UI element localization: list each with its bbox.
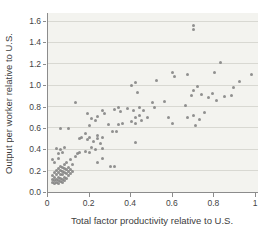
scatter-point [101,136,104,139]
x-tick-label: 0.4 [117,198,143,208]
scatter-point [142,109,145,112]
scatter-point [196,85,199,88]
scatter-point [65,177,68,180]
x-tick-label: 0.2 [76,198,102,208]
scatter-point [213,71,216,74]
scatter-point [96,134,99,137]
scatter-point [80,136,83,139]
y-tick [43,42,46,43]
scatter-point [101,157,104,160]
scatter-point [61,151,64,154]
scatter-point [69,158,72,161]
scatter-point [171,122,174,125]
scatter-point [96,115,99,118]
scatter-point [117,123,120,126]
scatter-point [101,147,104,150]
scatter-point [130,84,133,87]
scatter-point [99,142,102,145]
scatter-point [136,91,139,94]
y-tick-label: 1.6 [15,16,41,26]
scatter-point [192,24,195,27]
scatter-point [230,94,233,97]
y-tick-label: 0.6 [15,123,41,133]
scatter-point [74,155,77,158]
y-tick-label: 0.8 [15,102,41,112]
x-tick [172,193,173,197]
x-tick [213,193,214,197]
scatter-point [163,100,166,103]
y-tick-label: 0.4 [15,144,41,154]
scatter-point [71,170,74,173]
scatter-point [117,106,120,109]
scatter-point [74,101,77,104]
x-tick [130,193,131,197]
scatter-point [57,157,60,160]
scatter-point [53,161,56,164]
scatter-point [200,93,203,96]
scatter-point [115,130,118,133]
gridline-y-0.2 [48,170,258,171]
scatter-point [192,114,195,117]
gridline-y-0.4 [48,149,258,150]
scatter-point [96,137,99,140]
x-tick-label: 0.6 [159,198,185,208]
scatter-point [94,119,97,122]
scatter-point [215,99,218,102]
scatter-point [57,152,60,155]
scatter-point [59,127,62,130]
scatter-point [155,79,158,82]
y-tick [43,171,46,172]
scatter-point [171,71,174,74]
y-tick [43,21,46,22]
y-tick-label: 0.0 [15,187,41,197]
x-tick-label: 1 [242,198,267,208]
scatter-point [121,122,124,125]
x-tick [255,193,256,197]
y-tick [43,149,46,150]
scatter-point [232,86,235,89]
scatter-point [63,146,66,149]
y-tick-label: 1.4 [15,37,41,47]
x-tick [47,193,48,197]
x-tick-label: 0 [34,198,60,208]
scatter-point [90,146,93,149]
scatter-point [134,141,137,144]
y-tick [43,128,46,129]
y-tick-label: 1.0 [15,80,41,90]
scatter-point [92,140,95,143]
scatter-point [203,111,206,114]
scatter-point [65,161,68,164]
scatter-point [138,106,141,109]
scatter-point [67,127,70,130]
scatter-point [190,94,193,97]
scatter-point [207,96,210,99]
scatter-point [151,101,154,104]
gridline-y-1 [48,85,258,86]
gridline-y-0.6 [48,127,258,128]
scatter-point [192,89,195,92]
x-tick [89,193,90,197]
scatter-point [132,109,135,112]
y-axis-title: Output per worker relative to U.S. [1,13,15,195]
scatter-point [55,147,58,150]
scatter-point [140,119,143,122]
y-tick [43,64,46,65]
gridline-y-1.2 [48,63,258,64]
scatter-point [78,151,81,154]
scatter-point [167,116,170,119]
scatter-point [103,112,106,115]
plot-area [47,13,258,193]
scatter-point [186,116,189,119]
scatter-point [173,75,176,78]
scatter-point [111,130,114,133]
scatter-point [113,165,116,168]
scatter-point [71,163,74,166]
scatter-point [107,123,110,126]
scatter-point [134,116,137,119]
scatter-point [126,107,129,110]
scatter-point [96,161,99,164]
scatter-point [84,150,87,153]
scatter-point [90,117,93,120]
y-tick-label: 0.2 [15,166,41,176]
scatter-point [223,95,226,98]
